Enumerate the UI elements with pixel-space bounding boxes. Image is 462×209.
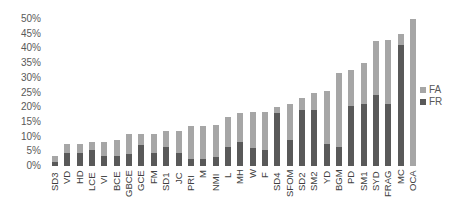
- y-tick-label: 25%: [21, 88, 41, 98]
- bar-fa: [250, 112, 256, 149]
- bar-fr: [262, 150, 268, 166]
- x-tick-label: PRI: [186, 175, 196, 191]
- bar-fa: [114, 140, 120, 156]
- x-tick-label: SD1: [161, 172, 171, 190]
- x-tick-label: BCE: [112, 171, 122, 191]
- x-tick-label: SFOM: [285, 169, 295, 196]
- x-tick-label: PD: [346, 171, 356, 184]
- bar-fr: [64, 153, 70, 166]
- bar-fr: [361, 104, 367, 166]
- y-tick-label: 50%: [21, 14, 41, 24]
- x-tick-label: SYD: [371, 171, 381, 191]
- x-tick-label: VD: [62, 171, 72, 184]
- x-tick-label: L: [223, 173, 233, 178]
- bar-fr: [385, 104, 391, 166]
- bar-fa: [398, 34, 404, 46]
- x-tick-label: HD: [75, 171, 85, 185]
- x-tick-label: F: [260, 172, 270, 178]
- y-tick-label: 10%: [21, 132, 41, 142]
- bar-fr: [237, 142, 243, 166]
- x-tick-label: NMI: [211, 173, 221, 190]
- x-tick-label: M: [198, 170, 208, 178]
- bar-fr: [114, 156, 120, 166]
- bar-fa: [262, 112, 268, 150]
- y-tick-label: 30%: [21, 73, 41, 83]
- bar-fr: [250, 148, 256, 166]
- y-tick-label: 5%: [27, 146, 41, 156]
- bar-fr: [287, 140, 293, 166]
- bar-fa: [188, 126, 194, 158]
- bar-fa: [77, 144, 83, 153]
- y-tick-label: 0%: [27, 161, 41, 171]
- bar-fa: [126, 134, 132, 155]
- bar-fa: [410, 19, 416, 166]
- x-tick-label: SD3: [50, 172, 60, 190]
- bar-fr: [213, 157, 219, 166]
- bar-fa: [237, 113, 243, 142]
- y-tick-label: 45%: [21, 29, 41, 39]
- x-tick-label: GBCE: [124, 170, 134, 197]
- legend-label-fr: FR: [429, 96, 442, 107]
- x-tick-label: MH: [235, 170, 245, 185]
- legend-item-fr: FR: [420, 96, 442, 107]
- x-tick-label: SM2: [309, 171, 319, 191]
- bar-fa: [361, 63, 367, 104]
- bar-fa: [151, 134, 157, 153]
- bar-fr: [348, 106, 354, 166]
- x-tick-label: SD4: [272, 172, 282, 190]
- legend-swatch-fa: [420, 87, 426, 93]
- x-tick-label: VI: [99, 175, 109, 184]
- bar-fa: [287, 104, 293, 139]
- bar-fr: [126, 154, 132, 166]
- bar-fr: [89, 150, 95, 166]
- bar-fa: [138, 134, 144, 146]
- bar-fr: [373, 95, 379, 166]
- bar-fr: [324, 144, 330, 166]
- bar-fr: [176, 153, 182, 166]
- x-tick-label: FM: [149, 171, 159, 185]
- bar-fa: [324, 91, 330, 144]
- bar-fr: [336, 147, 342, 166]
- bar-fr: [163, 147, 169, 166]
- bar-fa: [348, 70, 354, 105]
- bar-fa: [299, 98, 305, 110]
- x-tick-label: BGM: [334, 169, 344, 191]
- legend-item-fa: FA: [420, 84, 441, 95]
- bar-fr: [188, 159, 194, 166]
- bar-fr: [398, 45, 404, 166]
- bar-fa: [101, 142, 107, 155]
- y-tick-label: 40%: [21, 43, 41, 53]
- x-tick-label: GCE: [136, 170, 146, 191]
- bar-fr: [299, 110, 305, 166]
- bar-fr: [101, 156, 107, 166]
- bar-fr: [138, 145, 144, 166]
- bar-fa: [89, 142, 95, 149]
- bar-fa: [274, 107, 280, 113]
- bar-fa: [373, 41, 379, 95]
- bar-fr: [52, 162, 58, 166]
- bar-fa: [200, 126, 206, 158]
- bar-fa: [225, 117, 231, 146]
- bar-fr: [77, 153, 83, 166]
- stacked-bar-chart: 0%5%10%15%20%25%30%35%40%45%50% SD3VDHDL…: [0, 0, 462, 209]
- bar-fa: [176, 131, 182, 153]
- bar-fa: [336, 73, 342, 147]
- bar-fa: [64, 144, 70, 153]
- y-tick-label: 35%: [21, 58, 41, 68]
- bar-fr: [311, 110, 317, 166]
- bar-fr: [274, 113, 280, 166]
- bar-fr: [200, 159, 206, 166]
- bar-fa: [163, 131, 169, 147]
- x-tick-label: SM1: [359, 171, 369, 191]
- bar-fr: [225, 147, 231, 166]
- x-tick-label: JC: [174, 173, 184, 185]
- bar-fa: [311, 93, 317, 111]
- bar-fr: [151, 153, 157, 166]
- x-tick-label: OCA: [408, 170, 418, 191]
- legend-swatch-fr: [420, 99, 426, 105]
- x-tick-label: LCE: [87, 172, 97, 190]
- legend-label-fa: FA: [429, 84, 441, 95]
- x-tick-label: MC: [396, 170, 406, 185]
- x-tick-label: W: [248, 169, 258, 178]
- bar-fa: [385, 40, 391, 105]
